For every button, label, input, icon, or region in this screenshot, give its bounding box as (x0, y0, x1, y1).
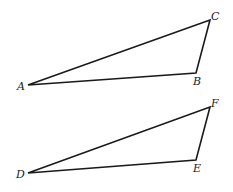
vertex-label-b: B (192, 75, 201, 88)
vertex-label-e: E (192, 162, 201, 175)
vertex-label-a: A (16, 80, 25, 93)
vertex-label-c: C (211, 10, 220, 23)
vertex-label-d: D (15, 168, 25, 181)
triangle-abc: A B C (16, 10, 220, 93)
triangle-def: D E F (15, 97, 219, 181)
triangle-def-shape (28, 107, 210, 173)
triangle-abc-shape (28, 20, 210, 85)
triangles-diagram: A B C D E F (0, 0, 233, 192)
vertex-label-f: F (210, 97, 219, 110)
